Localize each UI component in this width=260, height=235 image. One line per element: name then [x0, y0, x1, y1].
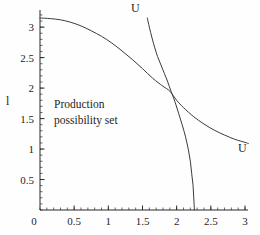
x-tick-label: 1: [106, 216, 112, 227]
y-tick-label: 2: [16, 83, 34, 94]
chart-container: 00.511.522.53 0.511.522.53 l Production …: [0, 0, 260, 235]
curve-label-u-top: U: [131, 2, 140, 14]
annotation-line-1: Production: [54, 97, 118, 113]
plot-area: [0, 0, 260, 235]
x-tick-label: 2: [174, 216, 180, 227]
curve-label-u-right: U: [238, 142, 247, 154]
y-tick-label: 3: [16, 22, 34, 33]
annotation-line-2: possibility set: [54, 113, 118, 129]
y-tick-label: 2.5: [16, 52, 34, 63]
x-tick-label: 0: [31, 216, 37, 227]
y-tick-label: 0.5: [16, 174, 34, 185]
y-tick-label: 1.5: [16, 113, 34, 124]
curve-indifference-curve-U: [147, 18, 194, 210]
production-possibility-set-annotation: Production possibility set: [54, 97, 118, 128]
y-tick-label: 1: [16, 144, 34, 155]
x-tick-label: 2.5: [204, 216, 218, 227]
x-tick-label: 3: [242, 216, 248, 227]
y-axis-label: l: [6, 94, 9, 109]
x-tick-label: 0.5: [67, 216, 81, 227]
x-tick-label: 1.5: [136, 216, 150, 227]
